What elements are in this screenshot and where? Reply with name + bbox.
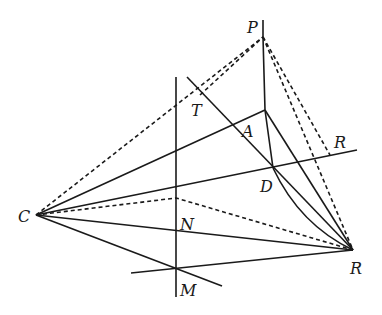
- geometry-diagram: P T A R D C N R M: [0, 0, 382, 315]
- line-p-a-d: [263, 20, 273, 168]
- line-a-r: [265, 110, 353, 250]
- label-c: C: [18, 207, 30, 226]
- line-c-a: [36, 110, 265, 215]
- label-m: M: [179, 281, 197, 300]
- line-m-r: [131, 250, 353, 273]
- label-p: P: [246, 18, 258, 37]
- line-t-r: [187, 77, 353, 250]
- label-t: T: [191, 101, 203, 120]
- dash-t-p: [200, 37, 263, 95]
- label-a: A: [240, 122, 254, 141]
- line-c-d-r: [36, 150, 357, 215]
- dash-p-r-1: [263, 37, 330, 155]
- label-r-bottom: R: [349, 259, 362, 278]
- label-n: N: [179, 215, 195, 234]
- label-r-top: R: [333, 133, 346, 152]
- label-d: D: [259, 177, 273, 196]
